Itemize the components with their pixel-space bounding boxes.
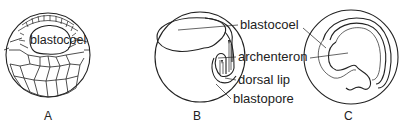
panel-label-a: A [44, 109, 52, 123]
panel-a-blastula: blastocoel A [4, 13, 90, 123]
callout-archenteron: archenteron [238, 49, 307, 64]
callout-blastopore: blastopore [233, 91, 294, 106]
callout-dorsal-lip: dorsal lip [238, 72, 290, 87]
gastrulation-diagram: blastocoel A B C [0, 0, 407, 127]
panel-b-early-gastrula: B [155, 12, 245, 123]
blastocoel-inner-label: blastocoel [30, 33, 86, 47]
panel-c-late-gastrula: C [304, 10, 398, 123]
panel-label-b: B [193, 109, 201, 123]
callout-blastocoel: blastocoel [240, 17, 299, 32]
panel-label-c: C [344, 109, 353, 123]
